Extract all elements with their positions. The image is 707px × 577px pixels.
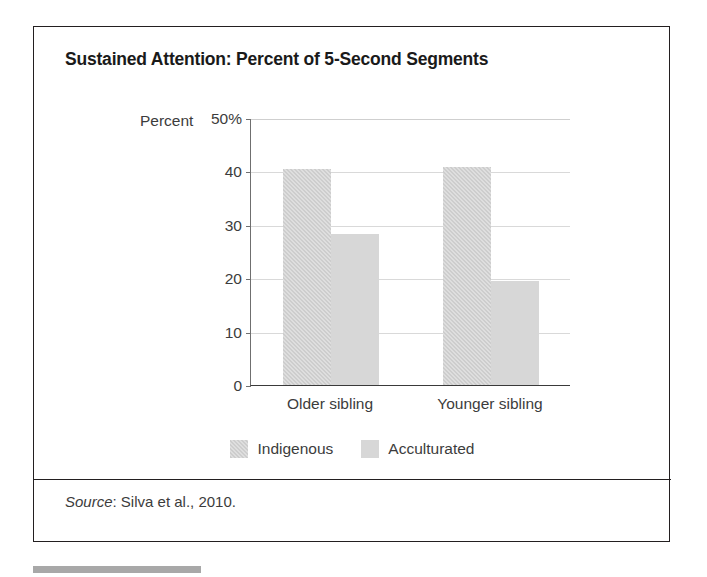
bar-older-sibling-acculturated (331, 234, 379, 385)
source-divider (34, 479, 671, 480)
y-tick-mark-40 (246, 172, 251, 173)
y-tick-mark-50 (246, 119, 251, 120)
y-tick-mark-0 (246, 386, 251, 387)
source-label: Source (65, 493, 113, 510)
y-tick-label-20: 20 (225, 270, 242, 288)
legend-label-acculturated: Acculturated (388, 440, 474, 458)
gridline-50 (251, 119, 570, 120)
y-axis-title: Percent (140, 112, 193, 130)
y-tick-label-50: 50% (211, 110, 242, 128)
bar-younger-sibling-acculturated (491, 281, 539, 385)
legend-item-acculturated[interactable]: Acculturated (361, 440, 474, 458)
legend-item-indigenous[interactable]: Indigenous (230, 440, 333, 458)
legend-label-indigenous: Indigenous (257, 440, 333, 458)
page-artifact-bar (33, 566, 201, 573)
bar-older-sibling-indigenous (283, 169, 331, 385)
legend-swatch-acculturated-icon (361, 440, 379, 458)
y-tick-label-30: 30 (225, 217, 242, 235)
y-tick-mark-30 (246, 226, 251, 227)
y-tick-label-40: 40 (225, 163, 242, 181)
x-category-label-younger-sibling: Younger sibling (437, 395, 542, 413)
y-tick-mark-10 (246, 333, 251, 334)
source-note: Source: Silva et al., 2010. (65, 493, 236, 510)
plot-area: 01020304050% (250, 119, 570, 386)
source-citation: : Silva et al., 2010. (113, 493, 236, 510)
y-tick-label-0: 0 (233, 377, 242, 395)
x-category-label-older-sibling: Older sibling (287, 395, 373, 413)
plot-container: Percent 01020304050% Older siblingYounge… (34, 27, 671, 543)
legend-swatch-indigenous-icon (230, 440, 248, 458)
chart-legend: IndigenousAcculturated (34, 440, 671, 458)
y-tick-label-10: 10 (225, 324, 242, 342)
bar-younger-sibling-indigenous (443, 167, 491, 385)
figure-frame: Sustained Attention: Percent of 5-Second… (33, 26, 670, 542)
y-tick-mark-20 (246, 279, 251, 280)
